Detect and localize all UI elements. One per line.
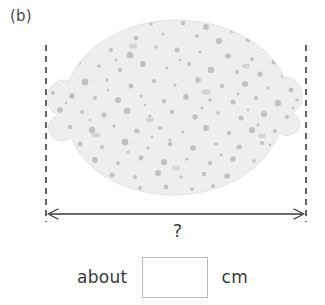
answer-input-box[interactable] [142, 257, 208, 298]
figure-layer [0, 0, 325, 225]
answer-unit-label: cm [222, 269, 249, 286]
answer-row: about cm [0, 253, 325, 301]
unknown-length-value: ? [173, 220, 183, 241]
unknown-length-label: ? [0, 222, 325, 240]
lemon-icon [0, 0, 325, 225]
worksheet-problem: (b) [0, 0, 325, 305]
answer-prefix-label: about [77, 269, 128, 286]
